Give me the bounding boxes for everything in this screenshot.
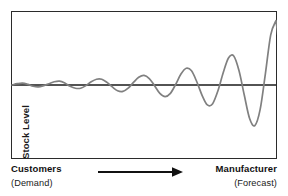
forecast-label: (Forecast) xyxy=(216,177,277,189)
arrow-head xyxy=(172,167,183,177)
manufacturer-label: Manufacturer xyxy=(216,163,277,175)
y-axis-label: Stock Level xyxy=(17,11,35,159)
stock-level-curve xyxy=(12,21,277,158)
customers-label-group: Customers (Demand) xyxy=(11,163,62,189)
demand-label: (Demand) xyxy=(11,177,62,189)
plot-area xyxy=(11,11,277,159)
direction-arrow-icon xyxy=(98,164,184,180)
bullwhip-effect-figure: Stock Level Customers (Demand) Manufactu… xyxy=(0,0,288,196)
customers-label: Customers xyxy=(11,163,62,175)
manufacturer-label-group: Manufacturer (Forecast) xyxy=(216,163,277,189)
